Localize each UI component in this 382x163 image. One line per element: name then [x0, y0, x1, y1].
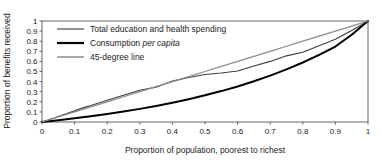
x-tick-label: 0.3 — [134, 127, 146, 136]
lorenz-curve-chart: 00.10.20.30.40.50.60.70.80.91 00.10.20.3… — [0, 0, 382, 163]
x-tick-label: 0.5 — [199, 127, 211, 136]
x-tick-label: 0.2 — [102, 127, 114, 136]
x-axis-title: Proportion of population, poorest to ric… — [125, 145, 286, 155]
x-tick-label: 0.7 — [265, 127, 277, 136]
chart-figure: 00.10.20.30.40.50.60.70.80.91 00.10.20.3… — [0, 0, 382, 163]
legend-label-education: Total education and health spending — [90, 24, 226, 34]
y-tick-label: 0.3 — [26, 88, 38, 97]
y-axis-title: Proportion of benefits received — [2, 13, 12, 129]
y-tick-label: 0.1 — [26, 108, 38, 117]
legend-label-consumption-italic: per capita — [141, 38, 180, 48]
y-tick-label: 0.2 — [26, 98, 38, 107]
x-tick-label: 0.4 — [167, 127, 179, 136]
legend-label-consumption-prefix: Consumption — [90, 38, 142, 48]
y-tick-label: 0 — [33, 118, 38, 127]
x-tick-label: 0.9 — [330, 127, 342, 136]
y-tick-label: 0.6 — [26, 57, 38, 66]
y-tick-label: 0.9 — [26, 27, 38, 36]
x-axis-tick-labels: 00.10.20.30.40.50.60.70.80.91 — [40, 127, 371, 136]
x-tick-label: 0 — [40, 127, 45, 136]
y-tick-label: 0.8 — [26, 37, 38, 46]
legend-label-45degree: 45-degree line — [90, 52, 145, 62]
y-tick-label: 1 — [33, 17, 38, 26]
y-tick-label: 0.4 — [26, 78, 38, 87]
x-tick-label: 0.6 — [232, 127, 244, 136]
y-tick-label: 0.7 — [26, 47, 38, 56]
x-tick-label: 0.1 — [69, 127, 81, 136]
x-tick-label: 0.8 — [297, 127, 309, 136]
x-tick-label: 1 — [366, 127, 371, 136]
legend-label-consumption: Consumption per capita — [90, 38, 180, 48]
y-axis-tick-labels: 00.10.20.30.40.50.60.70.80.91 — [26, 17, 38, 127]
y-tick-label: 0.5 — [26, 67, 38, 76]
